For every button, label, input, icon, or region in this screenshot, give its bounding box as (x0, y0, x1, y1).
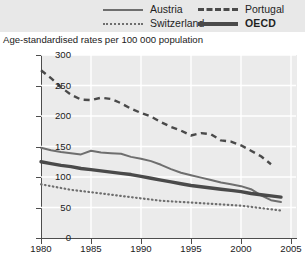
x-tick-mark (41, 239, 42, 244)
legend-swatch-thick-icon (198, 18, 238, 29)
x-tick-label: 2000 (219, 244, 263, 254)
chart-canvas (41, 55, 296, 238)
legend-label-portugal: Portugal (245, 4, 284, 15)
legend-item-austria: Austria (103, 3, 183, 16)
x-tick-label: 1985 (69, 244, 113, 254)
x-tick-label: 2005 (269, 244, 305, 254)
x-tick-label: 1980 (19, 244, 63, 254)
legend-grid: Austria Switzerland Portugal OECD (103, 2, 303, 30)
legend-item-portugal: Portugal (198, 3, 284, 16)
legend-label-austria: Austria (150, 4, 183, 15)
legend-swatch-dashed-icon (198, 4, 238, 15)
x-tick-mark (91, 239, 92, 244)
chart-screenshot: Austria Switzerland Portugal OECD Age-st… (0, 0, 305, 263)
x-tick-mark (291, 239, 292, 244)
series-line-portugal (41, 70, 271, 164)
x-tick-mark (241, 239, 242, 244)
x-tick-mark (191, 239, 192, 244)
legend-item-switzerland: Switzerland (103, 17, 204, 30)
legend-label-switzerland: Switzerland (150, 18, 204, 29)
legend-item-oecd: OECD (198, 17, 276, 30)
chart-legend: Austria Switzerland Portugal OECD (0, 0, 305, 32)
legend-label-oecd: OECD (245, 18, 276, 29)
legend-swatch-solid-icon (103, 4, 143, 15)
x-tick-label: 1995 (169, 244, 213, 254)
x-tick-label: 1990 (119, 244, 163, 254)
plot-container: 050100150200250300 198019851990199520002… (0, 48, 305, 263)
series-line-oecd (41, 162, 281, 197)
x-tick-mark (141, 239, 142, 244)
legend-swatch-dotted-icon (103, 18, 143, 29)
y-axis-title: Age-standardised rates per 100 000 popul… (3, 34, 203, 46)
